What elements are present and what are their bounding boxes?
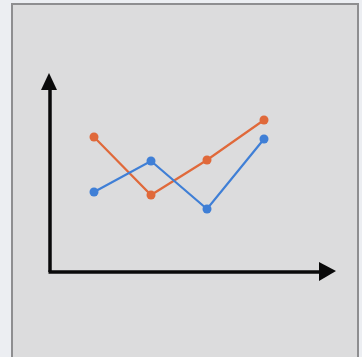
orange-data-point bbox=[147, 191, 156, 200]
blue-data-point bbox=[203, 205, 212, 214]
blue-data-point bbox=[147, 157, 156, 166]
blue-data-point bbox=[90, 188, 99, 197]
y-axis-arrow-icon bbox=[41, 73, 57, 90]
orange-data-point bbox=[203, 156, 212, 165]
blue-data-point bbox=[260, 135, 269, 144]
x-axis-arrow-icon bbox=[319, 262, 336, 281]
axes bbox=[41, 73, 336, 281]
orange-data-point bbox=[90, 133, 99, 142]
orange-data-point bbox=[260, 116, 269, 125]
blue-series-line bbox=[94, 139, 264, 209]
